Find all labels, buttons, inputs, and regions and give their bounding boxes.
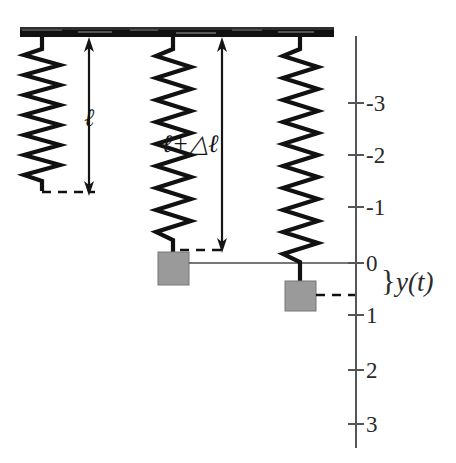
spring-displaced [283,37,318,281]
label-stretched-length: ℓ+△ℓ [162,130,219,157]
mass-equilibrium [158,252,189,285]
mass-displaced [285,281,316,311]
axis-tick-label-2: 2 [366,358,378,383]
axis-tick-label--2: -2 [366,143,385,168]
dimension-arrow-stretched-length [217,37,227,253]
displacement-brace: } [381,263,395,296]
spring-mass-diagram: ℓ ℓ+△ℓ -3 -2 -1 0 1 2 [0,0,456,463]
displacement-label: y(t) [393,267,433,297]
spring-natural [24,37,60,191]
y-axis [348,36,364,448]
axis-tick-label-1: 1 [366,303,378,328]
axis-tick-label--1: -1 [366,195,385,220]
ceiling-support-bar [20,27,334,37]
axis-tick-label-0: 0 [366,251,378,276]
axis-tick-label-3: 3 [366,412,378,437]
axis-tick-label--3: -3 [366,91,385,116]
label-natural-length: ℓ [84,104,95,131]
